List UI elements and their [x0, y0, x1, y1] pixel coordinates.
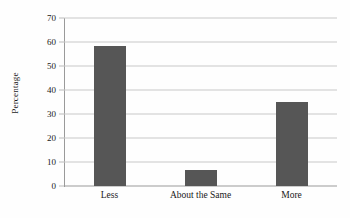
x-axis-tick-label: Less	[101, 190, 118, 200]
x-axis-tick-label: More	[281, 190, 302, 200]
x-axis-tick-labels: LessAbout the SameMore	[64, 190, 337, 210]
x-axis-tick-label: About the Same	[170, 190, 231, 200]
bar	[276, 102, 308, 186]
y-axis-tick-label: 20	[47, 134, 56, 143]
y-axis-tick-label: 10	[47, 158, 56, 167]
y-axis-tick-label: 70	[47, 14, 56, 23]
y-axis-tick-label: 30	[47, 110, 56, 119]
bar	[185, 170, 217, 186]
y-axis-tick-label: 0	[52, 182, 57, 191]
plot-area	[64, 18, 337, 186]
y-axis-title: Percentage	[6, 0, 24, 186]
bar-series	[64, 18, 337, 186]
y-axis-tick-labels: 010203040506070	[26, 18, 56, 186]
y-axis-tick-label: 50	[47, 62, 56, 71]
y-axis-tick-label: 40	[47, 86, 56, 95]
y-axis-title-text: Percentage	[10, 72, 20, 113]
bar	[94, 46, 126, 186]
bar-chart: Percentage 010203040506070 LessAbout the…	[0, 0, 350, 218]
y-axis-tick-label: 60	[47, 38, 56, 47]
